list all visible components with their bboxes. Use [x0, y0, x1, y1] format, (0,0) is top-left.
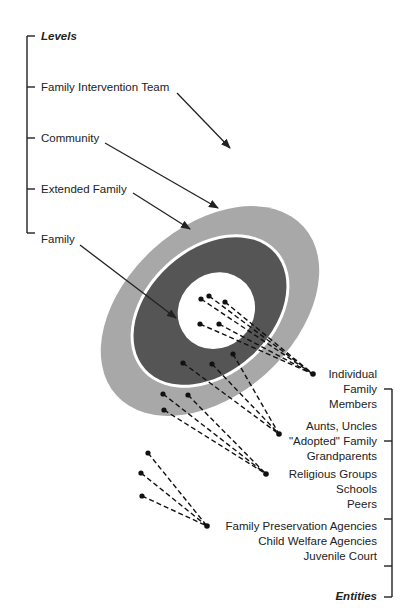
level-community: Community — [41, 131, 99, 145]
entity-line: Child Welfare Agencies — [226, 534, 377, 549]
entity-line: Juvenile Court — [226, 549, 377, 564]
entity-group-individual-family-members: Individual Family Members — [328, 367, 377, 412]
levels-title: Levels — [41, 29, 77, 43]
entity-group-extended-family: Aunts, Uncles "Adopted" Family Grandpare… — [289, 419, 377, 464]
level-family: Family — [41, 232, 75, 246]
entity-line: Aunts, Uncles — [289, 419, 377, 434]
entity-line: "Adopted" Family — [289, 434, 377, 449]
arrow-extended-family — [133, 193, 190, 229]
entity-line: Individual — [328, 367, 377, 382]
entity-line: Religious Groups — [289, 467, 377, 482]
entities-title: Entities — [335, 589, 377, 604]
entity-group-community: Religious Groups Schools Peers — [289, 467, 377, 512]
arrow-family-intervention-team — [177, 93, 230, 148]
entity-line: Grandparents — [289, 449, 377, 464]
level-extended-family: Extended Family — [41, 182, 127, 196]
concentric-rings — [60, 164, 360, 457]
entity-line: Members — [328, 397, 377, 412]
entity-line: Family — [328, 382, 377, 397]
arrow-community — [105, 143, 218, 208]
level-family-intervention-team: Family Intervention Team — [41, 80, 169, 94]
levels-bracket — [27, 36, 35, 233]
entity-line: Family Preservation Agencies — [226, 519, 377, 534]
entity-line: Peers — [289, 497, 377, 512]
entity-group-agencies: Family Preservation Agencies Child Welfa… — [226, 519, 377, 564]
entity-line: Schools — [289, 482, 377, 497]
entities-bracket — [384, 389, 392, 597]
